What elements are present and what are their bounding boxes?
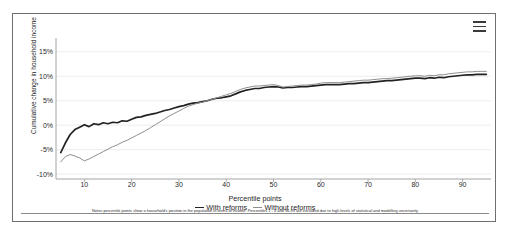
y-tick-label-3: 0% — [23, 122, 53, 129]
x-tick-label-4: 50 — [261, 181, 287, 188]
y-tick-label-5: -10% — [23, 171, 53, 178]
x-tick-label-5: 60 — [308, 181, 334, 188]
axis-lines — [56, 38, 491, 182]
y-tick-label-1: 10% — [23, 73, 53, 80]
x-tick-label-8: 90 — [450, 181, 476, 188]
data-series-layer — [61, 71, 487, 162]
series-line-without_reforms — [61, 71, 487, 162]
y-tick-label-4: -5% — [23, 146, 53, 153]
x-tick-label-7: 80 — [402, 181, 428, 188]
x-tick-label-3: 40 — [213, 181, 239, 188]
plot-area: Cumulative change in household income 15… — [13, 14, 497, 223]
x-tick-label-1: 20 — [119, 181, 145, 188]
chart-footnote: Notes:percentile points show a household… — [13, 209, 497, 213]
gridlines — [56, 52, 491, 174]
y-tick-label-0: 15% — [23, 48, 53, 55]
x-axis-title: Percentile points — [13, 194, 497, 203]
x-tick-label-6: 70 — [355, 181, 381, 188]
y-tick-label-2: 5% — [23, 97, 53, 104]
x-tick-label-0: 10 — [71, 181, 97, 188]
x-tick-label-2: 30 — [166, 181, 192, 188]
chart-card: Cumulative change in household income 15… — [12, 13, 496, 222]
line-chart-svg — [13, 14, 497, 223]
